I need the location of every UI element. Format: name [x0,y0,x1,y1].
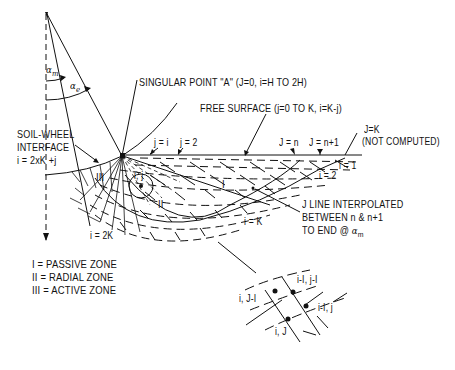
legend-radial: II = RADIAL ZONE [32,271,114,283]
interp-label-1: J LINE INTERPOLATED [302,198,403,210]
j-equals-1-label: j = i [154,137,168,149]
slip-line-field-diagram [0,0,455,370]
j-equals-n-label: J = n [279,137,299,149]
j-equals-k-label: J=K [364,124,380,136]
not-computed-label: (NOT COMPUTED) [362,136,440,148]
soil-wheel-label-3: i = 2xK +j [17,154,56,166]
soil-wheel-label-1: SOIL-WHEEL [17,128,74,140]
zone-I-label: I [222,178,225,190]
i-equals-2-label: i = 2 [319,170,336,182]
free-surface-label: FREE SURFACE (j=0 TO K, i=K-j) [200,102,342,114]
zone-II-label: II [158,198,164,210]
legend-passive: I = PASSIVE ZONE [32,258,117,270]
legend-active: III = ACTIVE ZONE [32,284,116,296]
interp-label-3: TO END @ αm [302,224,364,238]
i-equals-2k-label: i = 2K [90,230,113,242]
alpha-m-label: αm [46,64,59,77]
alpha-e-label: αe [70,80,80,93]
node-ij-label: i, j [134,170,143,182]
detail-node-bottom: i, J [275,326,287,338]
interp-label-2: BETWEEN n & n+1 [302,211,383,223]
soil-wheel-label-2: INTERFACE [17,141,69,153]
alpha-m-ray [47,14,90,226]
detail-node-right: i-I, j [318,302,333,314]
singular-point-label: SINGULAR POINT "A" (J=0, i=H TO 2H) [139,76,307,88]
j-equals-2-label: j = 2 [180,137,197,149]
zone-III-label: III [96,171,104,183]
j-equals-n1-label: J = n+1 [309,137,339,149]
alpha-e-arc [46,89,89,100]
detail-node-top: i-I, j-I [297,274,317,286]
detail-node-left: i, J-I [239,293,256,305]
i-equals-k-label: i = K [244,216,262,228]
i-equals-1-label: i = 1 [339,160,356,172]
vertical-axis [43,12,49,241]
